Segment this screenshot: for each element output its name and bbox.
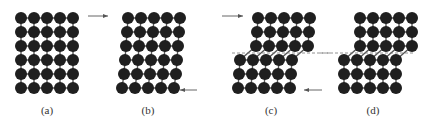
caption-a: (a) [32,104,62,116]
atom-d [354,12,366,24]
caption-c: (c) [256,104,286,116]
atom-d [367,26,379,38]
atom-c [285,68,297,80]
atom-c [265,12,277,24]
atom-b [148,12,160,24]
atom-a [41,12,53,24]
atom-a [41,82,53,94]
atom-c [290,26,302,38]
atom-b [170,68,182,80]
atom-c [245,82,257,94]
atom-a [41,54,53,66]
caption-b: (b) [133,104,163,116]
caption-d: (d) [358,104,388,116]
atom-b [120,40,132,52]
atom-d [364,68,376,80]
atom-d [354,26,366,38]
atom-b [161,12,173,24]
atom-c [260,54,272,66]
atom-c [233,68,245,80]
atom-a [41,40,53,52]
atom-a [28,40,40,52]
atom-b [134,26,146,38]
atom-a [15,26,27,38]
atom-a [67,54,79,66]
atom-a [67,12,79,24]
atom-d [390,68,402,80]
atom-c [234,54,246,66]
atom-a [28,82,40,94]
atom-d [377,54,389,66]
atom-c [284,82,296,94]
arrowhead-icon [304,88,309,92]
atom-a [54,40,66,52]
atom-c [247,54,259,66]
atom-c [302,40,314,52]
arrowhead-icon [180,88,185,92]
atom-b [147,26,159,38]
atom-c [271,82,283,94]
atom-c [289,40,301,52]
atom-d [390,82,402,94]
atom-c [252,12,264,24]
atom-d [338,68,350,80]
atom-c [251,26,263,38]
atom-b [171,54,183,66]
atom-c [250,40,262,52]
atom-d [364,82,376,94]
atom-d [380,40,392,52]
atom-d [393,40,405,52]
atom-b [173,26,185,38]
atom-c [304,12,316,24]
atom-a [54,26,66,38]
atom-b [172,40,184,52]
atom-b [145,54,157,66]
atom-a [15,54,27,66]
atom-c [303,26,315,38]
atom-b [129,82,141,94]
atom-c [272,68,284,80]
atom-a [67,40,79,52]
atom-b [158,54,170,66]
atom-a [28,68,40,80]
atom-c [291,12,303,24]
atom-d [393,12,405,24]
atom-a [15,68,27,80]
atom-a [28,12,40,24]
atom-a [54,12,66,24]
atom-d [390,54,402,66]
atom-b [118,68,130,80]
atom-d [351,54,363,66]
atom-a [28,54,40,66]
atom-b [144,68,156,80]
atom-b [174,12,186,24]
atom-b [155,82,167,94]
arrowhead-icon [103,14,108,18]
atom-a [67,26,79,38]
atom-c [276,40,288,52]
atom-d [406,12,418,24]
atom-a [54,54,66,66]
atom-b [119,54,131,66]
atom-b [159,40,171,52]
atom-b [168,82,180,94]
atom-d [380,26,392,38]
atom-d [338,54,350,66]
atom-c [286,54,298,66]
atom-b [116,82,128,94]
atom-c [264,26,276,38]
atom-c [258,82,270,94]
atom-a [54,68,66,80]
atom-d [351,68,363,80]
atom-b [131,68,143,80]
atom-d [377,82,389,94]
arrowhead-icon [238,14,243,18]
atom-d [338,82,350,94]
atom-d [367,40,379,52]
atom-c [277,26,289,38]
atom-b [157,68,169,80]
atom-d [367,12,379,24]
atom-c [263,40,275,52]
atom-c [273,54,285,66]
atom-d [364,54,376,66]
